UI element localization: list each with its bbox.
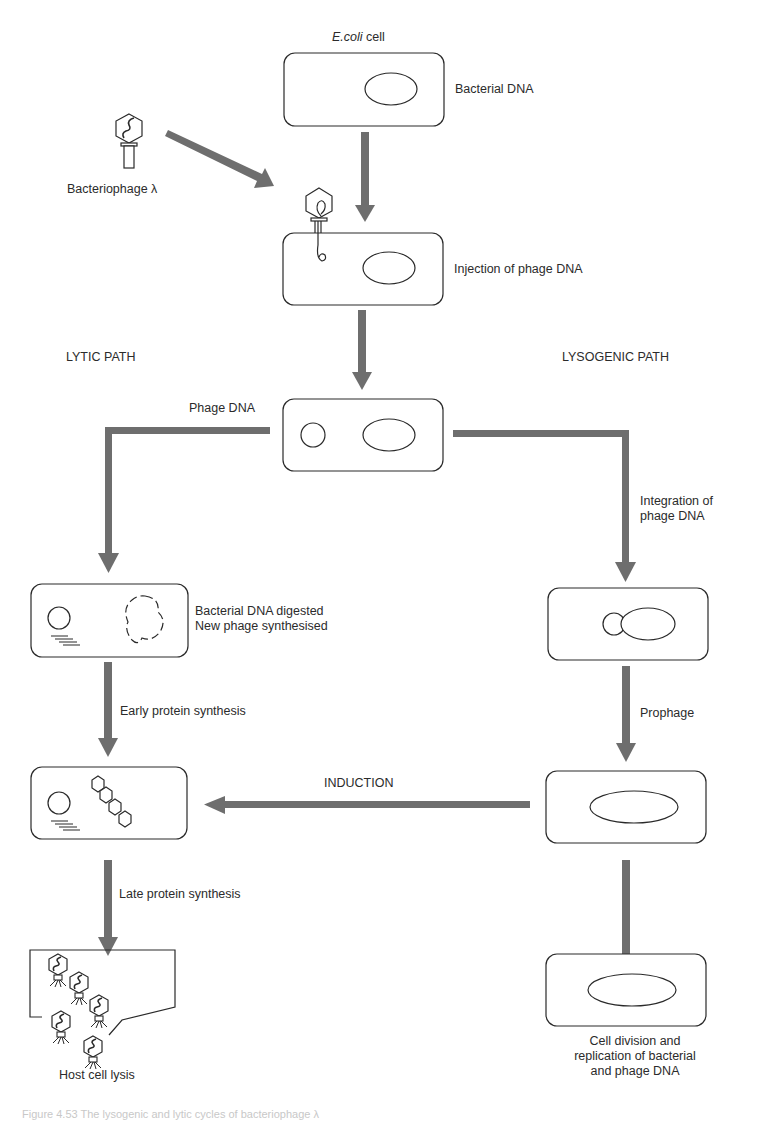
late-protein-label: Late protein synthesis bbox=[119, 887, 241, 902]
ecoli-italic: E.coli bbox=[332, 30, 363, 44]
digested-line1: Bacterial DNA digested bbox=[195, 604, 328, 619]
integration-cell bbox=[548, 588, 708, 660]
bacterial-dna-label: Bacterial DNA bbox=[455, 82, 534, 97]
arrow-phage-to-injection bbox=[165, 130, 274, 188]
phage-icon bbox=[70, 972, 88, 1005]
integration-line1: Integration of bbox=[640, 494, 713, 509]
arrow-injection-to-phage-dna bbox=[358, 310, 366, 375]
bacteriophage-label: Bacteriophage λ bbox=[67, 182, 157, 197]
integration-line2: phage DNA bbox=[640, 509, 713, 524]
division-line1: Cell division and bbox=[560, 1034, 710, 1049]
early-protein-label: Early protein synthesis bbox=[120, 704, 246, 719]
arrow-induction bbox=[225, 801, 530, 808]
digested-label: Bacterial DNA digested New phage synthes… bbox=[195, 604, 328, 634]
arrow-lysogenic-branch bbox=[453, 430, 629, 437]
phage-dna-cell bbox=[283, 399, 443, 471]
digested-line2: New phage synthesised bbox=[195, 619, 328, 634]
released-phages bbox=[49, 954, 108, 1069]
early-protein-cell bbox=[31, 767, 187, 839]
phage-icon bbox=[49, 954, 67, 987]
division-cell bbox=[546, 954, 706, 1026]
arrow-prophage bbox=[622, 666, 630, 746]
arrow-early-protein bbox=[104, 662, 112, 742]
arrow-lytic-branch bbox=[105, 427, 270, 434]
digested-cell bbox=[31, 584, 188, 657]
phage-icon bbox=[90, 995, 108, 1028]
lambda-phage-lifecycle-diagram bbox=[0, 0, 765, 1124]
arrow-ecoli-to-injection bbox=[361, 132, 369, 207]
division-label: Cell division and replication of bacteri… bbox=[560, 1034, 710, 1079]
ecoli-suffix: cell bbox=[363, 30, 385, 44]
lysogenic-path-label: LYSOGENIC PATH bbox=[562, 350, 669, 365]
prophage-cell bbox=[546, 771, 706, 843]
ecoli-cell bbox=[284, 53, 444, 126]
division-line3: and phage DNA bbox=[560, 1064, 710, 1079]
integrated-prophage-dna bbox=[590, 791, 678, 823]
induction-label: INDUCTION bbox=[324, 776, 393, 791]
integration-label: Integration of phage DNA bbox=[640, 494, 713, 524]
prophage-label: Prophage bbox=[640, 706, 694, 721]
lytic-path-label: LYTIC PATH bbox=[66, 350, 135, 365]
figure-caption: Figure 4.53 The lysogenic and lytic cycl… bbox=[22, 1108, 319, 1120]
bacteriophage-lambda-icon bbox=[116, 114, 142, 168]
division-line2: replication of bacterial bbox=[560, 1049, 710, 1064]
host-lysis-label: Host cell lysis bbox=[59, 1068, 135, 1083]
arrow-late-protein bbox=[104, 860, 112, 940]
injection-label: Injection of phage DNA bbox=[454, 262, 583, 277]
bacterial-dna-shape bbox=[365, 73, 417, 105]
phage-dna-circle bbox=[301, 423, 325, 447]
phage-icon bbox=[84, 1036, 102, 1069]
phage-icon bbox=[52, 1011, 70, 1044]
ecoli-cell-label: E.coli cell bbox=[332, 30, 385, 45]
phage-dna-label: Phage DNA bbox=[189, 401, 255, 416]
